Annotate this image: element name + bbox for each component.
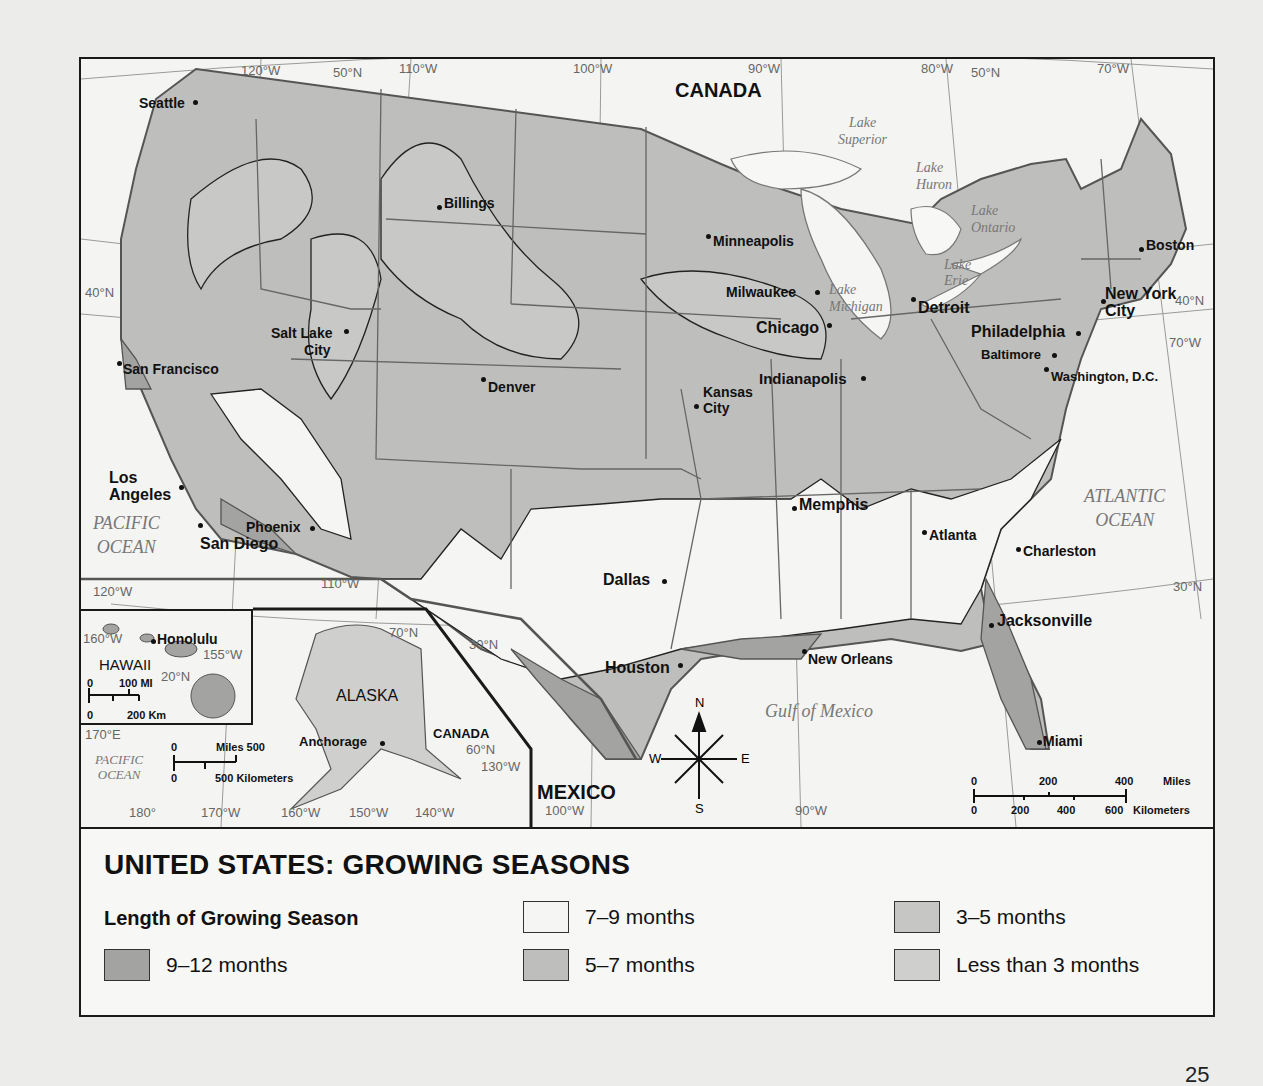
city-phoenix: Phoenix: [246, 519, 300, 535]
coord-label: 120°W: [93, 584, 132, 599]
coord-label: 110°W: [399, 61, 437, 76]
city-new-orleans: New Orleans: [808, 651, 893, 667]
scale-label: Kilometers: [1133, 804, 1190, 816]
scale-label: 100 MI: [119, 677, 153, 689]
city-indianapolis: Indianapolis: [759, 370, 847, 387]
scale-label: 400: [1115, 775, 1133, 787]
swatch-3-5: [894, 901, 940, 933]
coord-label: 60°N: [466, 742, 495, 757]
page-number: 25: [1185, 1062, 1209, 1086]
scale-label: 0: [87, 677, 93, 689]
swatch-5-7: [523, 949, 569, 981]
city-san-diego: San Diego: [200, 535, 278, 553]
coord-label: 50°N: [971, 65, 1000, 80]
legend-item-less-3: Less than 3 months: [894, 949, 1139, 981]
coord-label: 70°W: [1097, 61, 1129, 76]
compass-s: S: [695, 801, 704, 816]
city-anchorage: Anchorage: [299, 734, 367, 749]
legend-item-3-5: 3–5 months: [894, 901, 1066, 933]
city-seattle: Seattle: [139, 95, 185, 111]
coord-label: 110°W: [321, 576, 359, 591]
scale-label: 0: [171, 741, 177, 753]
swatch-9-12: [104, 949, 150, 981]
coord-label: 170°W: [201, 805, 240, 820]
coord-label: 100°W: [573, 61, 612, 76]
label-canada: CANADA: [675, 79, 762, 102]
city-boston: Boston: [1146, 237, 1194, 253]
label-hawaii: HAWAII: [99, 656, 151, 673]
label-lake-erie: Lake Erie: [944, 257, 971, 289]
coord-label: 40°N: [85, 285, 114, 300]
coord-label: 40°N: [1175, 293, 1204, 308]
city-denver: Denver: [488, 379, 535, 395]
coord-label: 130°W: [481, 759, 520, 774]
coord-label: 160°W: [83, 631, 122, 646]
scale-label: 200 Km: [127, 709, 166, 721]
city-baltimore: Baltimore: [981, 347, 1041, 362]
scale-label: Miles: [1163, 775, 1191, 787]
compass-n: N: [695, 695, 704, 710]
scale-label: Miles 500: [216, 741, 265, 753]
coord-label: 140°W: [415, 805, 454, 820]
city-new-york: New York City: [1105, 285, 1176, 319]
scale-label: 0: [971, 804, 977, 816]
label-mexico: MEXICO: [537, 781, 616, 804]
city-miami: Miami: [1043, 733, 1083, 749]
label-lake-ontario: Lake Ontario: [971, 202, 1015, 236]
compass-w: W: [649, 751, 661, 766]
city-milwaukee: Milwaukee: [726, 284, 796, 300]
coord-label: 90°W: [795, 803, 827, 818]
label-lake-michigan: Lake Michigan: [829, 281, 883, 315]
city-jacksonville: Jacksonville: [997, 612, 1092, 630]
coord-label: 90°W: [748, 61, 780, 76]
city-salt-lake-city: Salt Lake City: [271, 325, 332, 359]
coord-label: 30°N: [1173, 579, 1202, 594]
legend-panel: UNITED STATES: GROWING SEASONS Length of…: [81, 829, 1213, 1015]
city-washington-dc: Washington, D.C.: [1051, 369, 1158, 384]
city-philadelphia: Philadelphia: [971, 323, 1065, 341]
coord-label: 50°N: [333, 65, 362, 80]
label-lake-huron: Lake Huron: [916, 159, 952, 193]
city-los-angeles: Los Angeles: [109, 469, 171, 503]
city-atlanta: Atlanta: [929, 527, 976, 543]
label-lake-superior: Lake Superior: [838, 114, 887, 148]
coord-label: 70°W: [1169, 335, 1201, 350]
city-kansas-city: Kansas City: [703, 384, 753, 416]
legend-heading: Length of Growing Season: [104, 907, 358, 930]
label-canada-inset: CANADA: [433, 726, 489, 741]
coord-label: 30°N: [469, 637, 498, 652]
coord-label: 100°W: [545, 803, 584, 818]
swatch-7-9: [523, 901, 569, 933]
city-charleston: Charleston: [1023, 543, 1096, 559]
label-atlantic-ocean: ATLANTIC OCEAN: [1084, 484, 1165, 532]
label-alaska: ALASKA: [336, 687, 398, 705]
coord-label: 160°W: [281, 805, 320, 820]
city-chicago: Chicago: [756, 319, 819, 337]
coord-label: 180°: [129, 805, 156, 820]
label-gulf-of-mexico: Gulf of Mexico: [765, 701, 873, 722]
scale-label: 0: [971, 775, 977, 787]
city-houston: Houston: [605, 659, 670, 677]
map-title: UNITED STATES: GROWING SEASONS: [104, 849, 630, 881]
legend-item-7-9: 7–9 months: [523, 901, 695, 933]
coord-label: 70°N: [389, 625, 418, 640]
scale-label: 400: [1057, 804, 1075, 816]
legend-item-5-7: 5–7 months: [523, 949, 695, 981]
label-pacific-ocean-inset: PACIFIC OCEAN: [95, 752, 143, 782]
scale-label: 0: [171, 772, 177, 784]
city-honolulu: Honolulu: [157, 631, 218, 647]
city-dallas: Dallas: [603, 571, 650, 589]
legend-item-9-12: 9–12 months: [104, 949, 287, 981]
scale-label: 0: [87, 709, 93, 721]
swatch-less-3: [894, 949, 940, 981]
map-frame: CANADA MEXICO CANADA HAWAII ALASKA PACIF…: [79, 57, 1215, 1017]
coord-label: 20°N: [161, 669, 190, 684]
city-billings: Billings: [444, 195, 495, 211]
coord-label: 120°W: [241, 63, 280, 78]
city-memphis: Memphis: [799, 496, 868, 514]
coord-label: 150°W: [349, 805, 388, 820]
compass-e: E: [741, 751, 750, 766]
coord-label: 155°W: [203, 647, 242, 662]
coord-label: 170°E: [85, 727, 121, 742]
city-san-francisco: San Francisco: [123, 361, 219, 377]
